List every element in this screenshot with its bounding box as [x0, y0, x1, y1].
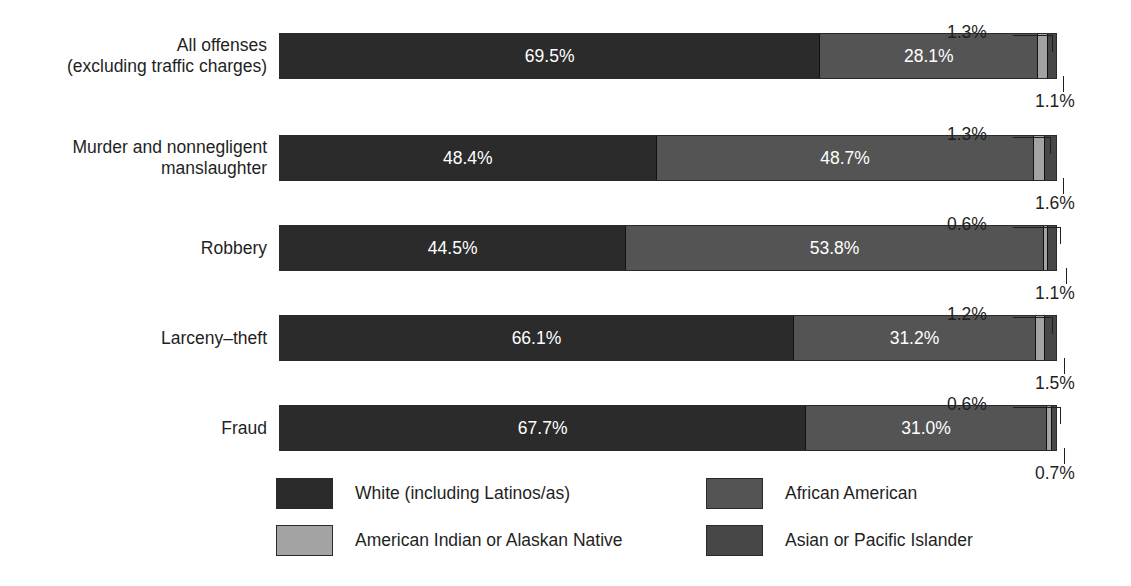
bar-segment-american-indian [1033, 136, 1043, 180]
segment-value-label: 31.2% [890, 328, 940, 349]
callout-leader-line [1063, 178, 1065, 194]
segment-value-label: 66.1% [512, 328, 562, 349]
bar-segment-white: 44.5% [280, 226, 625, 270]
bar-segment-asian-pacific-islander [1047, 226, 1056, 270]
callout-leader-line [1013, 35, 1053, 37]
bar-segment-white: 48.4% [280, 136, 656, 180]
legend-label: African American [785, 483, 917, 504]
callout-bottom-label: 1.5% [1035, 373, 1075, 394]
callout-leader-line [1013, 227, 1061, 229]
legend-swatch-american-indian-icon [276, 525, 333, 556]
segment-value-label: 69.5% [525, 46, 575, 67]
bar-segment-african-american: 31.0% [805, 406, 1046, 450]
callout-leader-line [1052, 35, 1054, 52]
bar-segment-asian-pacific-islander [1051, 406, 1056, 450]
callout-bottom-label: 1.1% [1035, 91, 1075, 112]
bar-segment-white: 67.7% [280, 406, 805, 450]
segment-value-label: 48.7% [820, 148, 870, 169]
bar-track: 67.7% 31.0% [279, 405, 1057, 451]
segment-value-label: 48.4% [443, 148, 493, 169]
bar-segment-african-american: 31.2% [793, 316, 1035, 360]
segment-value-label: 44.5% [428, 238, 478, 259]
legend-item-american-indian: American Indian or Alaskan Native [276, 525, 706, 556]
legend-item-white: White (including Latinos/as) [276, 478, 706, 509]
callout-leader-line [1050, 137, 1052, 154]
bar-track: 48.4% 48.7% [279, 135, 1057, 181]
category-label: Fraud [0, 418, 279, 439]
bar-segment-american-indian [1035, 316, 1044, 360]
callout-bottom-label: 1.6% [1035, 193, 1075, 214]
bar-track: 44.5% 53.8% [279, 225, 1057, 271]
chart-legend: White (including Latinos/as) African Ame… [276, 470, 1116, 564]
callout-top-label: 0.6% [947, 214, 987, 235]
callout-bottom-label: 1.1% [1035, 283, 1075, 304]
callout-leader-line [1013, 137, 1051, 139]
callout-top-label: 1.3% [947, 22, 987, 43]
callout-leader-line [1060, 227, 1062, 244]
category-label: Murder and nonnegligent manslaughter [0, 137, 279, 179]
segment-value-label: 53.8% [810, 238, 860, 259]
segment-value-label: 67.7% [518, 418, 568, 439]
callout-leader-line [1060, 407, 1062, 424]
legend-swatch-asian-pacific-islander-icon [706, 525, 763, 556]
bar-segment-white: 66.1% [280, 316, 793, 360]
bar-segment-asian-pacific-islander [1044, 316, 1056, 360]
legend-label: Asian or Pacific Islander [785, 530, 973, 551]
legend-swatch-white-icon [276, 478, 333, 509]
legend-item-asian-pacific-islander: Asian or Pacific Islander [706, 525, 1116, 556]
callout-leader-line [1066, 268, 1068, 284]
category-label: All offenses (excluding traffic charges) [0, 35, 279, 77]
legend-label: White (including Latinos/as) [355, 483, 570, 504]
callout-top-label: 1.2% [947, 304, 987, 325]
stacked-bar-chart: All offenses (excluding traffic charges)… [0, 0, 1131, 586]
callout-leader-line [1063, 76, 1065, 92]
callout-top-label: 0.6% [947, 394, 987, 415]
bar-segment-american-indian [1037, 34, 1047, 78]
category-label: Larceny–theft [0, 328, 279, 349]
segment-value-label: 28.1% [904, 46, 954, 67]
bar-track: 69.5% 28.1% [279, 33, 1057, 79]
callout-leader-line [1064, 448, 1066, 464]
callout-leader-line [1064, 358, 1066, 374]
callout-leader-line [1013, 407, 1061, 409]
segment-value-label: 31.0% [901, 418, 951, 439]
legend-item-african-american: African American [706, 478, 1116, 509]
bar-segment-african-american: 28.1% [819, 34, 1037, 78]
legend-swatch-african-american-icon [706, 478, 763, 509]
bar-track: 66.1% 31.2% [279, 315, 1057, 361]
bar-segment-white: 69.5% [280, 34, 819, 78]
callout-top-label: 1.3% [947, 124, 987, 145]
callout-leader-line [1013, 317, 1053, 319]
callout-leader-line [1052, 317, 1054, 334]
legend-label: American Indian or Alaskan Native [355, 530, 623, 551]
category-label: Robbery [0, 238, 279, 259]
